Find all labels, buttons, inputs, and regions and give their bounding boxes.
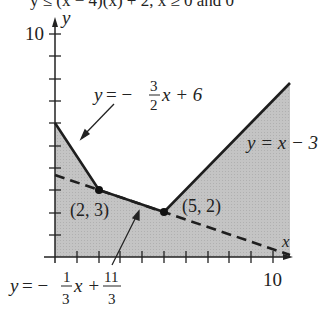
top-text-fragment: y ≤ (x − 4)(x) + 2, x ≥ 0 and 0: [30, 0, 234, 10]
x-tick-label-10: 10: [263, 269, 282, 290]
svg-text:x + 6: x + 6: [161, 84, 203, 105]
svg-text:3: 3: [150, 78, 158, 94]
svg-text:2: 2: [150, 97, 158, 113]
y-tick-label-10: 10: [25, 23, 44, 44]
vertex-label-5-2: (5, 2): [182, 196, 221, 217]
svg-text:y: y: [92, 84, 103, 105]
shaded-region: [55, 83, 290, 257]
vertex-point: [95, 186, 103, 194]
y-axis-label: y: [60, 7, 71, 28]
equation-label-2: y = x − 3: [245, 132, 318, 153]
vertex-label-2-3: (2, 3): [70, 200, 109, 221]
x-axis-label: x: [281, 232, 290, 251]
equation-label-3: y = − 1 3 x + 11 3: [8, 269, 121, 307]
svg-text:3: 3: [108, 291, 116, 307]
svg-text:= −: = −: [22, 275, 48, 296]
annotation-arrow: [81, 104, 114, 139]
svg-text:3: 3: [62, 291, 70, 307]
equation-label-1: y = − 3 2 x + 6: [92, 78, 203, 113]
graph: y ≤ (x − 4)(x) + 2, x ≥ 0 and 0: [0, 0, 336, 325]
svg-text:y: y: [8, 275, 19, 296]
svg-text:= −: = −: [106, 84, 132, 105]
svg-text:x +: x +: [73, 275, 100, 296]
svg-text:1: 1: [63, 269, 71, 285]
svg-text:11: 11: [104, 269, 118, 285]
vertex-point: [160, 208, 168, 216]
